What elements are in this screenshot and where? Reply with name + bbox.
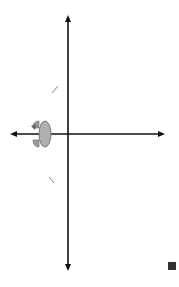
function-graph (0, 0, 179, 287)
label-f (52, 86, 58, 93)
y-axis-up-arrow-icon (65, 15, 71, 22)
label-h (49, 177, 54, 183)
y-axis-down-arrow-icon (65, 264, 71, 271)
x-axis-left-arrow-icon (10, 131, 17, 137)
x-axis-right-arrow-icon (158, 131, 165, 137)
end-of-figure-mark (168, 262, 176, 270)
